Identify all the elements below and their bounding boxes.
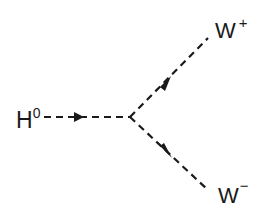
incoming-higgs-line bbox=[44, 112, 130, 122]
outgoing-w-minus-line bbox=[130, 117, 208, 190]
label-h0: H0 bbox=[16, 105, 41, 133]
arrow-icon bbox=[160, 143, 172, 158]
arrow-icon bbox=[160, 76, 171, 91]
label-w-plus: W+ bbox=[215, 14, 248, 43]
arrow-icon bbox=[74, 112, 84, 122]
feynman-diagram: H0 W+ W− bbox=[0, 0, 265, 215]
outgoing-w-plus-line bbox=[130, 38, 208, 117]
label-w-minus: W− bbox=[218, 177, 249, 208]
